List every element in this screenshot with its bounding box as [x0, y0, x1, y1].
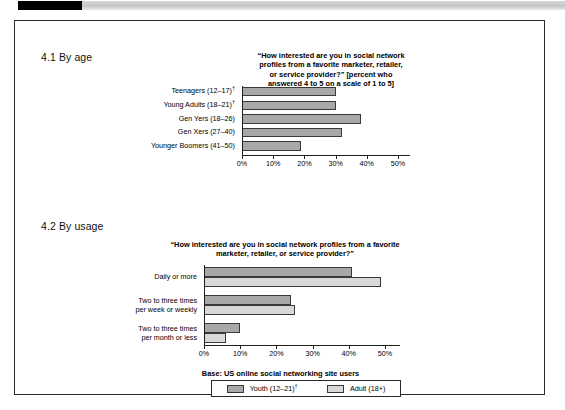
x-tick-label-3: 30% [305, 349, 319, 358]
section-heading-by-age: 4.1 By age [41, 51, 92, 63]
x-tick-label-2: 20% [269, 349, 283, 358]
x-tick-label-4: 40% [342, 349, 356, 358]
chart-title-line-2: or service provider?” [percent who [227, 70, 435, 79]
legend-item-0: Youth (12–21)† [227, 384, 298, 393]
bar-adult-2 [204, 333, 226, 343]
base-note: Base: US online social networking site u… [15, 369, 546, 378]
legend-label-0: Youth (12–21)† [250, 384, 298, 393]
x-tick-label-0: 0% [199, 349, 209, 358]
bar-by-age-1 [242, 101, 336, 110]
category-label-2: Gen Yers (18–26) [75, 114, 235, 123]
bar-adult-1 [204, 305, 295, 315]
x-axis-line [204, 345, 400, 346]
x-tick-label-2: 20% [297, 159, 311, 168]
chart-title-line-1: profiles from a favorite marketer, retai… [227, 60, 435, 69]
category-label-line-0: Two to three times [27, 296, 197, 305]
category-label-2: Two to three timesper month or less [27, 324, 197, 342]
category-label-1: Two to three timesper week or weekly [27, 296, 197, 314]
x-tick-label-1: 10% [233, 349, 247, 358]
chart-title-line-1: marketer, retailer, or service provider?… [125, 249, 445, 258]
gray-rule [82, 1, 565, 10]
bar-by-age-0 [242, 87, 336, 96]
category-label-line-1: per month or less [27, 333, 197, 342]
x-tick-label-5: 50% [378, 349, 392, 358]
chart-title-by-age: “How interested are you in social networ… [227, 51, 435, 88]
y-axis-line [204, 265, 205, 345]
category-label-1: Young Adults (18–21)† [75, 100, 235, 109]
bar-by-age-4 [242, 141, 301, 150]
category-label-4: Younger Boomers (41–50) [75, 141, 235, 150]
category-label-0: Daily or more [27, 272, 197, 281]
category-label-line-0: Daily or more [27, 272, 197, 281]
chart-legend: Youth (12–21)†Adult (18+) [211, 380, 401, 397]
x-axis-line [242, 155, 410, 156]
bar-youth-1 [204, 295, 291, 305]
chart-title-line-0: “How interested are you in social networ… [125, 240, 445, 249]
x-tick-label-0: 0% [237, 159, 247, 168]
category-label-line-0: Two to three times [27, 324, 197, 333]
x-tick-label-4: 40% [360, 159, 374, 168]
black-tab-marker [18, 1, 82, 10]
legend-label-1: Adult (18+) [350, 384, 385, 393]
bar-by-age-3 [242, 128, 342, 137]
x-tick-label-1: 10% [266, 159, 280, 168]
legend-swatch-1 [327, 385, 344, 393]
category-label-0: Teenagers (12–17)† [75, 86, 235, 95]
x-tick-label-5: 50% [391, 159, 405, 168]
chart-title-by-usage: “How interested are you in social networ… [125, 240, 445, 259]
x-tick-label-3: 30% [328, 159, 342, 168]
bar-adult-0 [204, 277, 381, 287]
page-frame: 4.1 By age “How interested are you in so… [14, 20, 545, 395]
y-axis-line [242, 86, 243, 155]
top-decorative-strip [0, 0, 565, 14]
bar-youth-2 [204, 323, 240, 333]
bar-youth-0 [204, 267, 352, 277]
bar-by-age-2 [242, 114, 361, 123]
category-label-line-1: per week or weekly [27, 305, 197, 314]
chart-title-line-0: “How interested are you in social networ… [227, 51, 435, 60]
category-label-3: Gen Xers (27–40) [75, 127, 235, 136]
legend-swatch-0 [227, 385, 244, 393]
legend-item-1: Adult (18+) [327, 384, 385, 393]
section-heading-by-usage: 4.2 By usage [41, 220, 104, 232]
